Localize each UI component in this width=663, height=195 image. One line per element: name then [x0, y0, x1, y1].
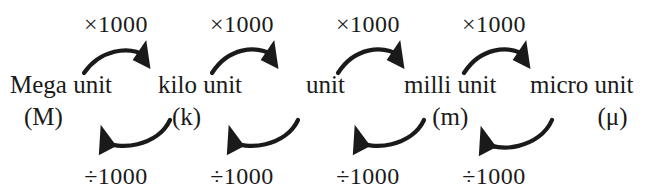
unit-symbol-micro: (μ) [530, 104, 633, 129]
unit-symbol-kilo: (k) [158, 104, 242, 129]
unit-block-mega: Mega unit (M) [10, 72, 112, 129]
unit-symbol-mega: (M) [10, 104, 112, 129]
multiply-label-1: ×1000 [84, 12, 148, 36]
divide-label-4: ÷1000 [462, 164, 526, 188]
unit-block-micro: micro unit (μ) [530, 72, 633, 129]
unit-name-base: unit [306, 72, 345, 97]
unit-block-milli: milli unit (m) [404, 72, 496, 129]
arrow-multiply-mega-to-kilo [84, 39, 161, 73]
arrow-multiply-base-to-milli [338, 39, 415, 73]
unit-name-kilo: kilo unit [158, 72, 242, 97]
divide-label-1: ÷1000 [84, 164, 148, 188]
unit-symbol-milli: (m) [404, 104, 496, 129]
divide-label-3: ÷1000 [336, 164, 400, 188]
unit-name-mega: Mega unit [10, 72, 112, 97]
multiply-label-3: ×1000 [336, 12, 400, 36]
divide-label-2: ÷1000 [210, 164, 274, 188]
unit-block-base: unit [306, 72, 345, 97]
arrow-multiply-kilo-to-base [212, 39, 289, 73]
metric-prefix-conversion-diagram: ×1000 ×1000 ×1000 ×1000 Mega unit (M) ki… [0, 0, 663, 195]
unit-name-micro: micro unit [530, 72, 633, 97]
unit-name-milli: milli unit [404, 72, 496, 97]
unit-block-kilo: kilo unit (k) [158, 72, 242, 129]
multiply-label-4: ×1000 [462, 12, 526, 36]
multiply-label-2: ×1000 [210, 12, 274, 36]
arrow-multiply-milli-to-micro [464, 39, 541, 73]
